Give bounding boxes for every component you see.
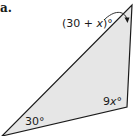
angle-br-suffix: ° [117,95,123,108]
angle-top-prefix: (30 + [62,17,97,30]
angle-label-bottom-right: 9x° [103,96,122,107]
angle-br-prefix: 9 [103,95,110,108]
angle-label-top: (30 + x)° [62,18,113,29]
angle-label-bottom-left: 30° [25,116,45,127]
angle-top-suffix: )° [103,17,113,30]
angle-bl-value: 30° [25,115,45,128]
